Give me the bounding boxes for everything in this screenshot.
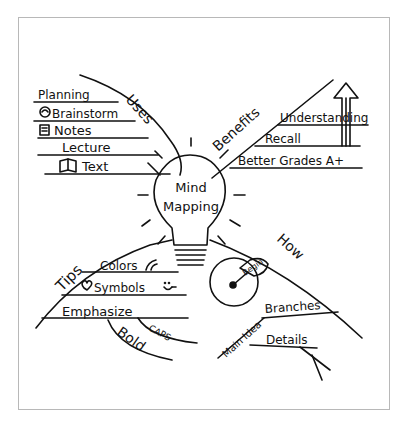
benefits-item-recall: Recall [265,132,301,146]
benefits-item-understanding: Understanding [280,111,368,125]
tips-item-colors: Colors [100,259,138,273]
branch-tips: Tips Colors Symbols Emphasize CAPS Bold [36,240,197,360]
branch-uses: Uses Planning Brainstorm Notes Lecture T… [34,75,181,175]
branch-label-how: How [274,230,307,262]
brain-icon [40,107,50,117]
branch-benefits: Benefits Understanding Recall Better Gra… [209,80,368,178]
benefits-item-better-grades: Better Grades A+ [238,154,344,168]
tips-sub-bold: Bold [114,323,149,354]
book-icon [60,159,76,172]
center-title-line1: Mind [175,180,206,195]
center-title-line2: Mapping [163,199,219,214]
tips-sub-caps: CAPS [147,323,173,343]
uses-item-text: Text [81,159,108,174]
uses-item-notes: Notes [54,123,92,138]
how-item-details: Details [266,333,308,347]
notepad-icon [40,125,49,135]
smiley-icon [164,283,176,290]
mind-map-canvas: Uses Planning Brainstorm Notes Lecture T… [0,0,407,431]
heart-icon [82,281,92,290]
tips-item-emphasize: Emphasize [62,304,133,319]
uses-item-brainstorm: Brainstorm [52,107,118,121]
uses-item-planning: Planning [38,88,90,102]
rainbow-icon [146,260,157,270]
tips-item-symbols: Symbols [94,281,145,295]
branch-label-tips: Tips [51,261,86,296]
uses-item-lecture: Lecture [62,140,111,155]
how-item-main-idea: Main Idea [220,319,264,360]
branch-how: How Begin Main Idea Branches Details [210,230,362,380]
